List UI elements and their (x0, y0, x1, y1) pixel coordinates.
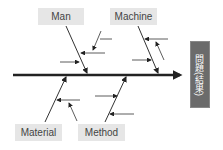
category-material: Material (15, 124, 62, 141)
effect-box: 問題(結果) (190, 41, 210, 108)
category-man: Man (38, 8, 84, 25)
category-machine: Machine (110, 8, 157, 25)
category-method: Method (78, 124, 125, 141)
